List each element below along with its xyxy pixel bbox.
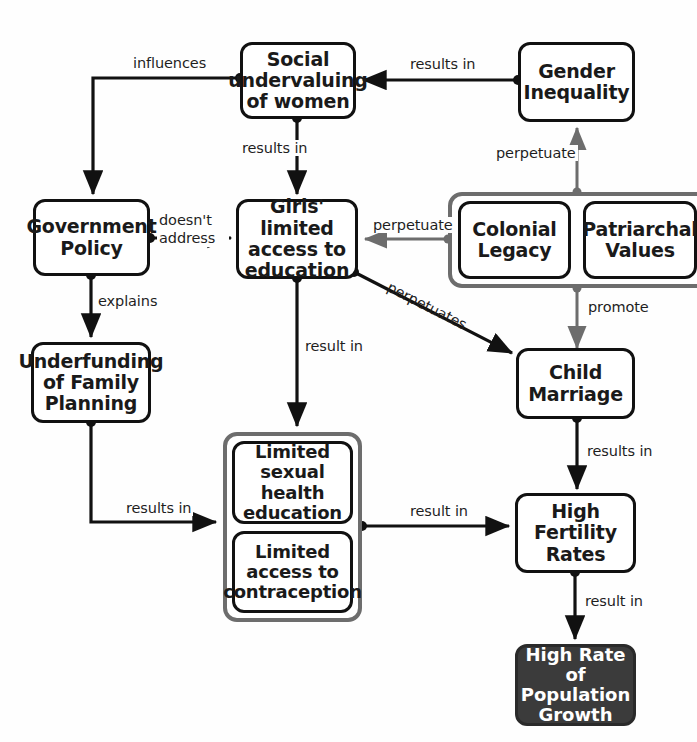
node-underfunding-family-planning[interactable]: Underfunding of Family Planning	[31, 342, 151, 423]
node-label: Child Marriage	[523, 362, 628, 405]
node-child-marriage[interactable]: Child Marriage	[516, 348, 635, 419]
edge-label-result-in-population: result in	[583, 593, 645, 609]
edge-sexed-to-fertility	[357, 521, 509, 531]
edge-girls-to-sexed	[292, 273, 302, 426]
edge-gender-to-social	[363, 75, 523, 85]
node-label: High Rate of Population Growth	[521, 645, 631, 726]
edge-fertility-to-population	[570, 567, 580, 639]
node-label: Colonial Legacy	[465, 219, 564, 262]
node-label: Social undervaluing of women	[228, 49, 367, 113]
edge-label-result-in-fertility: result in	[408, 503, 470, 519]
node-label: Government Policy	[26, 216, 156, 259]
edge-label-perpetuate-gender: perpetuate	[494, 145, 578, 161]
node-girls-education[interactable]: Girls' limited access to education	[236, 199, 358, 279]
edge-label-result-in-sexed: result in	[303, 338, 365, 354]
edge-influences	[93, 73, 245, 194]
node-label: Gender Inequality	[524, 61, 630, 104]
edge-label-promote: promote	[586, 299, 651, 315]
edge-group-to-gender	[573, 128, 582, 197]
edge-label-influences: influences	[131, 55, 208, 71]
edge-group-to-marriage	[573, 284, 582, 349]
edge-label-results-in-marriage: results in	[585, 443, 654, 459]
edge-label-perpetuate-girls: perpetuate	[371, 217, 455, 233]
node-government-policy[interactable]: Government Policy	[33, 199, 150, 276]
node-patriarchal-values[interactable]: Patriarchal Values	[583, 201, 697, 279]
node-label: Limited access to contraception	[223, 542, 362, 602]
edge-label-doesnt-address: doesn't address	[157, 211, 229, 247]
node-label: Limited sexual health education	[239, 442, 346, 523]
node-label: Underfunding of Family Planning	[19, 351, 164, 415]
edge-policy-to-underfunding	[86, 270, 96, 337]
node-high-rate-population-growth[interactable]: High Rate of Population Growth	[515, 644, 636, 726]
node-label: Girls' limited access to education	[243, 196, 351, 281]
edge-label-results-in-gender: results in	[408, 56, 477, 72]
edge-label-explains: explains	[96, 293, 159, 309]
edge-group-to-girls	[365, 235, 453, 244]
edge-marriage-to-fertility	[572, 413, 582, 489]
node-limited-sexual-health-education[interactable]: Limited sexual health education	[232, 441, 353, 524]
node-label: Patriarchal Values	[582, 219, 697, 262]
diagram-canvas: Social undervaluing of women Gender Ineq…	[0, 0, 697, 742]
node-label: High Fertility Rates	[522, 501, 629, 565]
node-limited-access-contraception[interactable]: Limited access to contraception	[232, 531, 353, 613]
node-high-fertility-rates[interactable]: High Fertility Rates	[515, 493, 636, 573]
node-social-undervaluing[interactable]: Social undervaluing of women	[240, 42, 356, 119]
node-colonial-legacy[interactable]: Colonial Legacy	[458, 201, 571, 279]
edge-label-results-in-social: results in	[240, 140, 309, 156]
edge-label-results-in-underfunding: results in	[124, 500, 193, 516]
node-gender-inequality[interactable]: Gender Inequality	[518, 42, 635, 122]
